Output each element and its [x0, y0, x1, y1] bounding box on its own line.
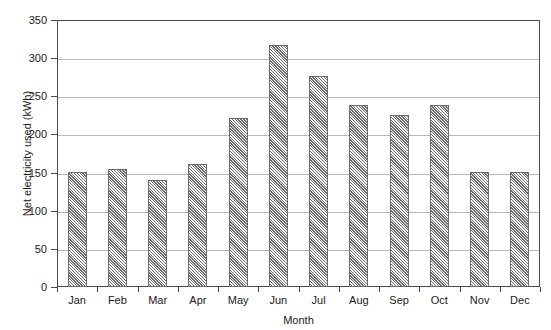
bar: [229, 118, 248, 287]
x-tick-label: Feb: [95, 293, 139, 307]
x-tick-mark: [178, 287, 179, 292]
x-tick-label: Apr: [176, 293, 220, 307]
x-tick-mark: [218, 287, 219, 292]
x-axis-title: Month: [57, 313, 540, 327]
x-axis-ticks: JanFebMarAprMayJunJulAugSepOctNovDec: [57, 287, 540, 313]
bar: [68, 172, 87, 287]
x-tick-label: Oct: [417, 293, 461, 307]
bar: [188, 164, 207, 287]
bar: [309, 76, 328, 287]
x-tick-mark: [339, 287, 340, 292]
x-tick-label: Jul: [297, 293, 341, 307]
x-tick-mark: [258, 287, 259, 292]
x-tick-mark: [500, 287, 501, 292]
bar: [470, 172, 489, 287]
x-tick-label: Mar: [136, 293, 180, 307]
x-tick-mark: [419, 287, 420, 292]
x-tick-mark: [460, 287, 461, 292]
x-tick-mark: [57, 287, 58, 292]
bar: [510, 172, 529, 287]
bar-chart: Net electricity used (kWh) 0501001502002…: [0, 0, 551, 330]
x-tick-mark: [299, 287, 300, 292]
y-axis-title: Net electricity used (kWh): [18, 20, 36, 287]
bar: [430, 105, 449, 287]
bar: [148, 180, 167, 287]
bar-series: [57, 20, 540, 287]
bar: [269, 45, 288, 287]
bar: [390, 115, 409, 287]
x-tick-label: Dec: [498, 293, 542, 307]
x-tick-label: Jan: [55, 293, 99, 307]
x-tick-label: Nov: [458, 293, 502, 307]
bar: [108, 169, 127, 287]
x-tick-mark: [138, 287, 139, 292]
x-tick-label: Aug: [337, 293, 381, 307]
x-tick-label: Sep: [377, 293, 421, 307]
x-tick-label: Jun: [256, 293, 300, 307]
x-tick-mark: [97, 287, 98, 292]
x-tick-mark: [379, 287, 380, 292]
x-tick-label: May: [216, 293, 260, 307]
x-tick-mark: [540, 287, 541, 292]
bar: [349, 105, 368, 287]
